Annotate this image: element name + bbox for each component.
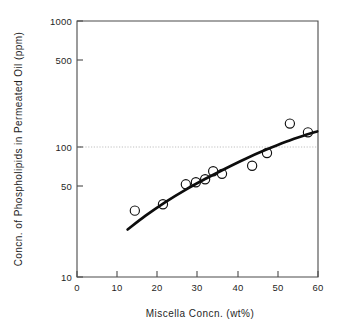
y-tick-label-100: 100 [56,142,72,153]
x-tick-label-20: 20 [152,282,163,293]
x-axis-title: Miscella Concn. (wt%) [146,308,254,319]
y-tick-label-50: 50 [61,181,72,192]
x-tick-label-50: 50 [273,282,284,293]
chart-background [0,0,356,329]
y-axis-title: Concn. of Phospholipids in Permeated Oil… [13,32,24,267]
chart-figure: 1000 500 100 50 10 0 10 20 30 40 50 60 [0,0,356,329]
x-tick-label-0: 0 [74,282,79,293]
x-tick-label-40: 40 [233,282,244,293]
x-tick-label-60: 60 [313,282,324,293]
y-tick-label-10: 10 [61,272,72,283]
scatter-plot-svg: 1000 500 100 50 10 0 10 20 30 40 50 60 [0,0,356,329]
y-tick-label-1000: 1000 [50,16,72,27]
x-tick-label-10: 10 [112,282,123,293]
y-tick-label-500: 500 [56,55,72,66]
x-tick-label-30: 30 [192,282,203,293]
